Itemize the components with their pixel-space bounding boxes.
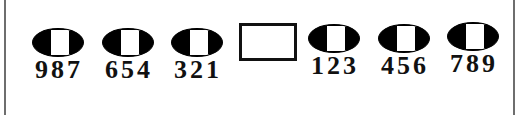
left-border-line bbox=[4, 0, 6, 115]
oval-window bbox=[120, 30, 140, 55]
oval-icon bbox=[308, 24, 360, 53]
oval-icon bbox=[102, 28, 154, 57]
answer-blank-box bbox=[239, 23, 297, 61]
oval-icon bbox=[171, 28, 223, 57]
oval-window bbox=[465, 24, 485, 49]
right-border-line bbox=[513, 0, 515, 115]
digits-label: 321 bbox=[168, 55, 228, 85]
oval-window bbox=[50, 30, 70, 55]
oval-icon bbox=[378, 24, 430, 53]
digits-label: 456 bbox=[375, 51, 435, 81]
oval-icon bbox=[447, 22, 499, 51]
digits-label: 789 bbox=[444, 49, 504, 79]
digits-label: 654 bbox=[99, 55, 159, 85]
oval-icon bbox=[32, 28, 84, 57]
oval-window bbox=[326, 26, 346, 51]
oval-window bbox=[189, 30, 209, 55]
digits-label: 987 bbox=[29, 55, 89, 85]
oval-window bbox=[396, 26, 416, 51]
digits-label: 123 bbox=[305, 51, 365, 81]
